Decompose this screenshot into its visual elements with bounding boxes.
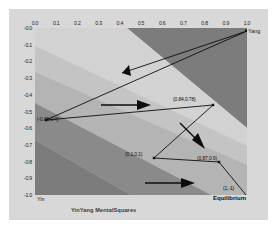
x-tick-9: 0.9 [222, 20, 229, 26]
figure-caption: YinYang MentalSquares [71, 207, 136, 213]
x-tick-6: 0.6 [159, 20, 166, 26]
y-tick-9: -0.9 [13, 175, 32, 181]
point-label-3: (0.87,0.9) [197, 155, 217, 161]
y-tick-2: -0.2 [13, 58, 32, 64]
point-label-1: (0.84,0.78) [173, 96, 196, 102]
vertex-b [212, 104, 214, 106]
x-tick-4: 0.4 [116, 20, 123, 26]
point-label-2: (0.1,0.1) [125, 151, 142, 157]
figure-canvas: (-0.05,0.4) (0.84,0.78) (0.1,0.1) (0.87,… [9, 9, 268, 220]
x-tick-0: 0.0 [32, 20, 39, 26]
vertex-c [153, 157, 155, 159]
point-label-4: (1,-1) [223, 185, 234, 191]
equilibrium-label: Equilibrium [213, 195, 246, 201]
point-label-0: (-0.05,0.4) [37, 116, 58, 122]
yang-label: Yang [248, 28, 260, 34]
y-tick-0: -0.0 [13, 25, 32, 31]
y-tick-4: -0.4 [13, 92, 32, 98]
x-tick-8: 0.8 [201, 20, 208, 26]
y-tick-6: -0.6 [13, 125, 32, 131]
plot-area: (-0.05,0.4) (0.84,0.78) (0.1,0.1) (0.87,… [35, 28, 247, 195]
x-tick-1: 0.1 [53, 20, 60, 26]
y-tick-3: -0.3 [13, 75, 32, 81]
x-tick-5: 0.5 [138, 20, 145, 26]
y-tick-10: -1.0 [13, 192, 32, 198]
plot-svg [35, 28, 247, 195]
y-tick-1: -0.1 [13, 42, 32, 48]
x-tick-3: 0.3 [95, 20, 102, 26]
x-tick-7: 0.7 [180, 20, 187, 26]
vertex-yang [245, 30, 247, 32]
vertex-d [218, 161, 220, 163]
x-tick-2: 0.2 [74, 20, 81, 26]
y-tick-8: -0.8 [13, 159, 32, 165]
x-tick-10: 1.0 [244, 20, 251, 26]
y-tick-7: -0.7 [13, 142, 32, 148]
yin-label: Yin [37, 196, 45, 202]
y-tick-5: -0.5 [13, 109, 32, 115]
